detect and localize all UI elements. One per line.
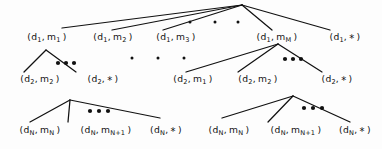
tree-edge-subtree_left_1-1 <box>46 50 76 72</box>
tree-edge-subtree_left_2-1 <box>68 100 70 122</box>
tree-node-l1-n5: (d1, * ) <box>329 32 360 43</box>
tree-edge-subtree_right_1-1 <box>238 44 278 72</box>
tree-node-l2a-n1: (d2, m2 ) <box>20 74 59 85</box>
ellipsis-dot-mid_small_dots-0 <box>131 57 134 60</box>
ellipsis-dot-bold_dots_left_2-0 <box>88 109 92 113</box>
ellipsis-dot-mid_small_dots-2 <box>183 57 186 60</box>
tree-node-l2b-n3: (d2, * ) <box>321 74 352 85</box>
tree-node-l1-n2: (d1, m2 ) <box>93 32 132 43</box>
tree-node-l3a-n1: (dN, mN ) <box>20 125 61 136</box>
ellipsis-dot-bold_dots_left_1-1 <box>64 61 68 65</box>
tree-node-l1-n3: (d1, m3 ) <box>156 32 195 43</box>
tree-diagram-figure: (d1, m1 )(d1, m2 )(d1, m3 )(d1, mM )(d1,… <box>0 0 382 149</box>
tree-node-l2a-n2: (d2, * ) <box>87 74 118 85</box>
tree-edge-subtree_left_2-0 <box>30 100 70 122</box>
tree-node-l2b-n2: (d2, m2 ) <box>238 74 277 85</box>
tree-node-l3b-n1: (dN, mN ) <box>209 125 250 136</box>
tree-node-l1-n4: (d1, mM ) <box>257 32 298 43</box>
tree-edge-root-4 <box>242 5 330 30</box>
tree-edge-subtree_right_1-0 <box>186 44 278 72</box>
ellipsis-dot-bold_dots_left_1-2 <box>72 61 76 65</box>
tree-edge-subtree_left_1-0 <box>24 50 46 72</box>
ellipsis-dot-bold_dots_right_2-1 <box>311 106 315 110</box>
tree-node-l3a-n3: (dN, * ) <box>150 125 182 136</box>
ellipsis-dot-bold_dots_right_2-0 <box>302 106 306 110</box>
ellipsis-dot-bold_dots_right_1-0 <box>283 57 287 61</box>
ellipsis-dot-bold_dots_left_1-0 <box>56 61 60 65</box>
ellipsis-dot-mid_small_dots-1 <box>157 57 160 60</box>
tree-node-l2b-n1: (d2, m1 ) <box>173 74 212 85</box>
ellipsis-dot-bold_dots_right_1-2 <box>299 57 303 61</box>
tree-node-l3b-n3: (dN, * ) <box>339 125 371 136</box>
tree-node-l3b-n2: (dN, mN+1 ) <box>271 125 322 136</box>
tree-edge-root-1 <box>112 5 242 30</box>
tree-edge-root-0 <box>62 5 242 28</box>
tree-node-l1-n1: (d1, m1 ) <box>27 32 66 43</box>
ellipsis-dot-root_small_dots-0 <box>189 21 192 24</box>
ellipsis-dot-bold_dots_right_1-1 <box>291 57 295 61</box>
tree-edge-subtree_left_2-2 <box>70 100 160 118</box>
ellipsis-dot-bold_dots_right_2-2 <box>320 106 324 110</box>
ellipsis-dot-root_small_dots-2 <box>237 21 240 24</box>
tree-node-l3a-n2: (dN, mN+1 ) <box>81 125 132 136</box>
ellipsis-dot-bold_dots_left_2-2 <box>106 109 110 113</box>
ellipsis-dot-bold_dots_left_2-1 <box>97 109 101 113</box>
ellipsis-dot-root_small_dots-1 <box>214 21 217 24</box>
